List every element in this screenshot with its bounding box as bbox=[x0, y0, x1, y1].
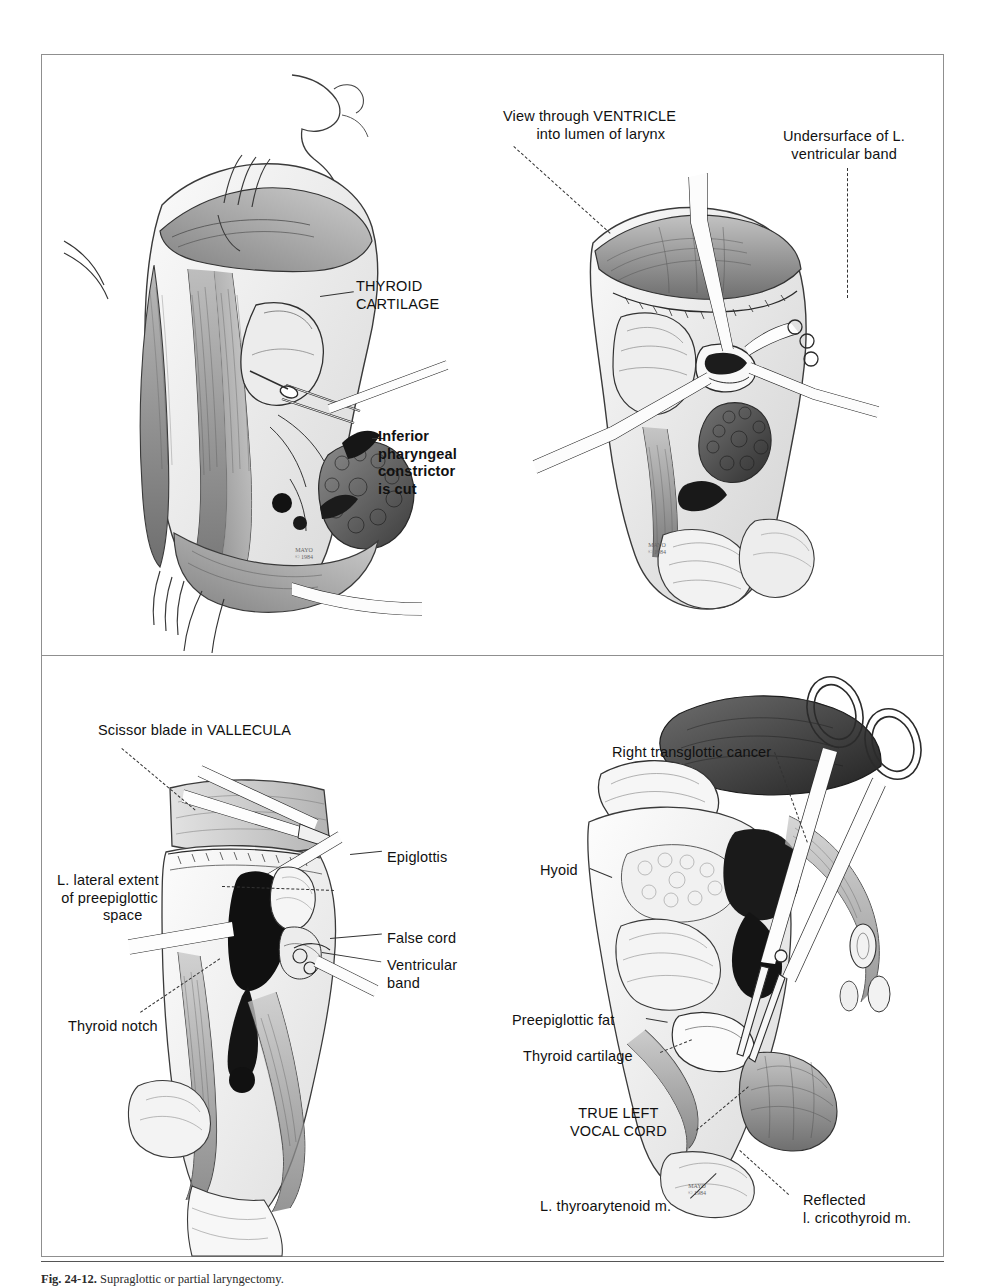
figure-caption-text: Supraglottic or partial laryngectomy. bbox=[97, 1272, 284, 1286]
label-epiglottis: Epiglottis bbox=[387, 849, 447, 867]
label-inferior-pharyngeal-constrictor: Inferior pharyngeal constrictor is cut bbox=[378, 428, 457, 498]
caption-rule bbox=[41, 1261, 944, 1262]
leader-undersurface-ventricular-band bbox=[847, 168, 848, 298]
label-l-lateral-extent-preepiglottic-space: L. lateral extent of preepiglottic space bbox=[57, 872, 159, 925]
panel-top-left: MAYO © 1984 bbox=[42, 55, 492, 655]
label-view-through-ventricle: View through VENTRICLE into lumen of lar… bbox=[503, 108, 676, 143]
figure-number: Fig. 24-12. bbox=[41, 1272, 97, 1286]
label-thyroid-cartilage: THYROID CARTILAGE bbox=[356, 278, 439, 313]
label-reflected-l-cricothyroid-m: Reflected l. cricothyroid m. bbox=[803, 1192, 911, 1227]
label-preepiglottic-fat: Preepiglottic fat bbox=[512, 1012, 615, 1030]
label-scissor-blade-in-vallecula: Scissor blade in VALLECULA bbox=[98, 722, 291, 740]
label-right-transglottic-cancer: Right transglottic cancer bbox=[612, 744, 771, 762]
label-true-left-vocal-cord: TRUE LEFT VOCAL CORD bbox=[570, 1105, 667, 1140]
label-ventricular-band: Ventricular band bbox=[387, 957, 457, 992]
label-hyoid: Hyoid bbox=[540, 862, 578, 880]
illustration-top-left bbox=[42, 55, 492, 655]
figure-caption: Fig. 24-12. Supraglottic or partial lary… bbox=[41, 1272, 944, 1287]
label-undersurface-l-ventricular-band: Undersurface of L. ventricular band bbox=[783, 128, 905, 163]
artist-signature-top-left: MAYO © 1984 bbox=[295, 547, 313, 560]
artist-signature-top-right: MAYO © 1984 bbox=[648, 542, 666, 555]
label-false-cord: False cord bbox=[387, 930, 456, 948]
label-l-thyroarytenoid-m: L. thyroarytenoid m. bbox=[540, 1198, 671, 1216]
label-thyroid-notch: Thyroid notch bbox=[68, 1018, 158, 1036]
label-thyroid-cartilage-specimen: Thyroid cartilage bbox=[523, 1048, 633, 1066]
